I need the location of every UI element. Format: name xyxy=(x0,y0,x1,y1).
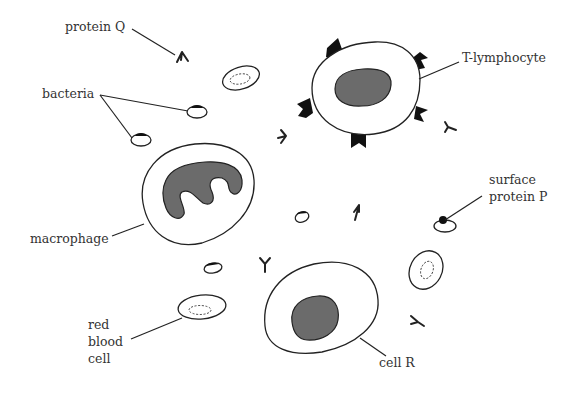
label-macrophage: macrophage xyxy=(30,231,109,246)
immune-cell-diagram: protein Q bacteria T-lymphocyte macropha… xyxy=(0,0,579,393)
leader-line-cell-r xyxy=(360,338,386,356)
leader-line-bacteria-2 xyxy=(100,95,132,138)
red-blood-cell xyxy=(220,62,263,95)
label-protein-q: protein Q xyxy=(65,19,125,34)
label-cell-r: cell R xyxy=(379,355,415,370)
label-surface-protein-p-line1: surface xyxy=(489,172,536,187)
bacterium xyxy=(294,210,311,224)
macrophage-cell xyxy=(142,144,254,245)
leader-line-macrophage xyxy=(112,224,144,236)
protein-q-antibody-icon xyxy=(278,130,286,143)
label-surface-protein-p-line2: protein P xyxy=(489,189,547,204)
label-red-blood-cell-line2: blood xyxy=(88,334,123,349)
protein-q-antibody-icon xyxy=(177,52,188,62)
leader-line-protein-q xyxy=(132,29,175,55)
bacterium-with-surface-protein-p xyxy=(434,216,456,232)
label-bacteria: bacteria xyxy=(42,86,94,101)
protein-q-antibody-icon xyxy=(445,122,456,132)
leader-line-surface-protein-p xyxy=(445,196,482,220)
bacterium xyxy=(203,262,222,275)
label-red-blood-cell-line3: cell xyxy=(88,351,110,366)
protein-q-antibody-icon xyxy=(411,316,424,326)
label-red-blood-cell-line1: red xyxy=(88,317,109,332)
leader-line-red-blood-cell xyxy=(131,318,182,339)
bacterium xyxy=(187,105,207,118)
t-lymphocyte xyxy=(297,38,428,148)
leader-line-t-lymphocyte xyxy=(419,62,459,79)
protein-q-antibody-icon xyxy=(354,205,359,220)
red-blood-cell xyxy=(177,293,227,322)
red-blood-cell xyxy=(402,245,449,295)
leader-line-bacteria-1 xyxy=(100,95,188,111)
cell-r xyxy=(265,262,378,353)
bacterium xyxy=(131,133,151,146)
label-t-lymphocyte: T-lymphocyte xyxy=(462,50,546,65)
protein-q-antibody-icon xyxy=(260,258,270,272)
